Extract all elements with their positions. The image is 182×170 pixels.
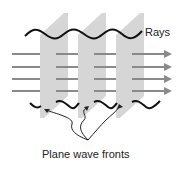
wave-front-planes (40, 13, 144, 118)
wave-fronts-label: Plane wave fronts (42, 148, 129, 160)
rays-label: Rays (145, 26, 170, 38)
plane-wave-diagram: Rays Plane wave fronts (0, 0, 182, 170)
